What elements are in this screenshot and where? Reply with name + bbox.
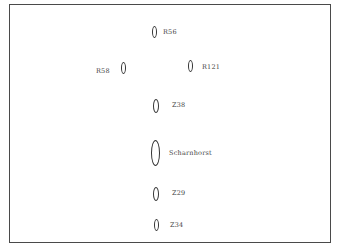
ship-r58-label: R58: [96, 68, 110, 75]
ship-z29-icon: [153, 187, 159, 201]
ship-z38-label: Z38: [172, 102, 185, 109]
ship-scharnhorst-icon: [151, 140, 160, 166]
ship-r121-icon: [188, 60, 193, 72]
ship-z29-label: Z29: [172, 190, 185, 197]
ship-r56-icon: [152, 26, 157, 38]
ship-z34-label: Z34: [170, 222, 183, 229]
ship-scharnhorst-label: Scharnhorst: [169, 150, 212, 157]
ship-r121-label: R121: [202, 64, 220, 71]
ship-r58-icon: [121, 62, 126, 74]
diagram-frame: [9, 4, 331, 243]
ship-z34-icon: [154, 219, 159, 231]
ship-z38-icon: [153, 99, 159, 113]
ship-r56-label: R56: [163, 29, 177, 36]
